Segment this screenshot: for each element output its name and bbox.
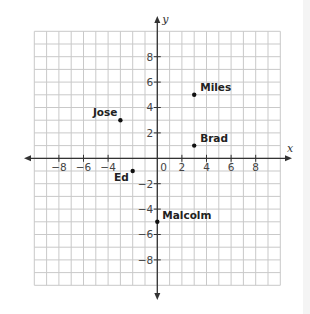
y-tick-label: 4	[147, 101, 154, 113]
x-axis-arrow-right-icon	[285, 155, 292, 161]
x-tick-label: 2	[179, 161, 186, 173]
point-dot-icon	[131, 169, 135, 173]
point-dot-icon	[192, 93, 196, 97]
y-tick-label: 6	[147, 76, 154, 88]
y-tick-label: 2	[147, 127, 154, 139]
coordinate-plane-figure: x y 0 −8−6−424688642−2−4−6−8 MilesJoseBr…	[0, 0, 310, 314]
point-label: Malcolm	[162, 209, 211, 221]
data-points: MilesJoseBradEdMalcolm	[92, 81, 231, 224]
point-dot-icon	[118, 118, 122, 122]
y-axis-arrow-down-icon	[154, 293, 160, 300]
point-dot-icon	[155, 220, 159, 224]
x-axis-arrow-left-icon	[24, 155, 31, 161]
x-tick-label: 6	[228, 161, 235, 173]
x-tick-label: 4	[203, 161, 210, 173]
data-point-ed: Ed	[114, 169, 135, 183]
y-axis-label: y	[161, 13, 169, 26]
coordinate-plane: x y 0 −8−6−424688642−2−4−6−8 MilesJoseBr…	[0, 0, 310, 314]
axes: x y 0	[24, 13, 294, 300]
point-label: Miles	[200, 81, 231, 93]
x-tick-label: −8	[51, 161, 66, 173]
origin-label: 0	[160, 161, 167, 173]
y-tick-label: −6	[138, 228, 154, 240]
y-tick-label: 8	[147, 51, 154, 63]
x-axis-label: x	[287, 142, 294, 155]
y-tick-label: −4	[138, 203, 154, 215]
x-tick-label: 8	[252, 161, 259, 173]
y-axis-arrow-up-icon	[154, 16, 160, 23]
point-label: Jose	[92, 106, 118, 118]
y-tick-label: −8	[138, 254, 153, 266]
y-tick-label: −2	[138, 178, 153, 190]
point-label: Brad	[200, 132, 228, 144]
point-dot-icon	[192, 143, 196, 147]
x-tick-label: −6	[76, 161, 92, 173]
point-label: Ed	[114, 171, 129, 183]
